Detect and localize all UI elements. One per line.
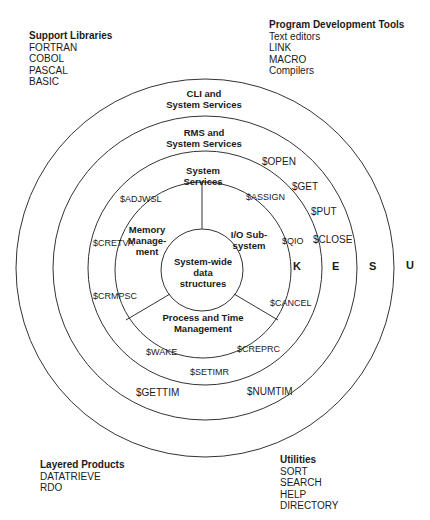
support-library-item: PASCAL <box>29 65 112 77</box>
system-wide-data-structures-label: System-wide data structures <box>174 256 232 289</box>
layered-products-title: Layered Products <box>40 459 124 471</box>
system-services-line2: Services <box>183 176 222 187</box>
executive-letter: E <box>332 261 339 272</box>
rms-line1: RMS and <box>166 127 242 138</box>
io-subsystem-label: I/O Sub- system <box>231 229 267 251</box>
layered-product-item: RDO <box>40 482 124 494</box>
call-get: $GET <box>292 181 318 192</box>
utility-item: SORT <box>280 466 339 478</box>
rms-line2: System Services <box>166 138 242 149</box>
utility-item: HELP <box>280 489 339 501</box>
cli-line1: CLI and <box>166 88 242 99</box>
call-crmpsc: $CRMPSC <box>93 291 137 302</box>
call-adjwsl: $ADJWSL <box>120 194 162 205</box>
io-line1: I/O Sub- <box>231 229 267 240</box>
call-creprc: $CREPRC <box>237 344 280 355</box>
supervisor-letter: S <box>369 261 376 272</box>
memory-line1: Memory <box>128 224 167 235</box>
process-line1: Process and Time <box>162 312 243 323</box>
core-line3: structures <box>174 278 232 289</box>
call-numtim: $NUMTIM <box>247 386 293 397</box>
call-close: $CLOSE <box>313 234 352 245</box>
call-qio: $QIO <box>282 236 304 247</box>
support-library-item: COBOL <box>29 53 112 65</box>
cli-ring-title: CLI and System Services <box>166 88 242 110</box>
system-services-ring-title: System Services <box>183 165 222 187</box>
dev-tool-item: Compilers <box>269 65 404 77</box>
user-letter: U <box>406 260 414 271</box>
io-line2: system <box>231 240 267 251</box>
program-development-tools-title: Program Development Tools <box>269 19 404 31</box>
call-cretva: $CRETVA <box>93 238 134 249</box>
rms-ring-title: RMS and System Services <box>166 127 242 149</box>
core-line2: data <box>174 267 232 278</box>
system-services-line1: System <box>183 165 222 176</box>
dev-tool-item: MACRO <box>269 54 404 66</box>
call-cancel: $CANCEL <box>270 298 312 309</box>
layered-product-item: DATATRIEVE <box>40 471 124 483</box>
utility-item: SEARCH <box>280 477 339 489</box>
support-library-item: BASIC <box>29 76 112 88</box>
dev-tool-item: LINK <box>269 42 404 54</box>
call-wake: $WAKE <box>146 347 177 358</box>
dev-tool-item: Text editors <box>269 31 404 43</box>
layered-products-block: Layered Products DATATRIEVE RDO <box>40 459 124 494</box>
support-libraries-title: Support Libraries <box>29 30 112 42</box>
cli-line2: System Services <box>166 99 242 110</box>
call-open: $OPEN <box>262 156 296 167</box>
utilities-block: Utilities SORT SEARCH HELP DIRECTORY <box>280 454 339 512</box>
call-setimr: $SETIMR <box>190 367 229 378</box>
process-time-management-label: Process and Time Management <box>162 312 243 334</box>
utilities-title: Utilities <box>280 454 339 466</box>
support-library-item: FORTRAN <box>29 42 112 54</box>
utility-item: DIRECTORY <box>280 500 339 512</box>
program-development-tools-block: Program Development Tools Text editors L… <box>269 19 404 77</box>
core-line1: System-wide <box>174 256 232 267</box>
call-put: $PUT <box>311 206 337 217</box>
support-libraries-block: Support Libraries FORTRAN COBOL PASCAL B… <box>29 30 112 88</box>
process-line2: Management <box>162 323 243 334</box>
call-assign: $ASSIGN <box>246 192 285 203</box>
call-gettim: $GETTIM <box>136 387 179 398</box>
kernel-letter: K <box>293 261 301 272</box>
